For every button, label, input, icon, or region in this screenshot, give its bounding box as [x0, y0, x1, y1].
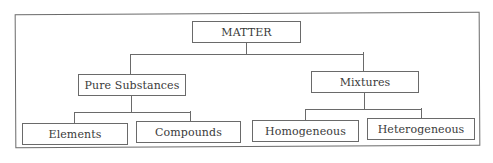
- connector-to-heterogeneous: [421, 108, 422, 118]
- node-compounds: Compounds: [136, 121, 241, 143]
- node-matter: MATTER: [192, 21, 301, 43]
- connector-pure-substances-stem: [131, 96, 132, 112]
- connector-to-elements: [74, 112, 75, 123]
- connector-root-branch: [130, 54, 364, 55]
- matter-classification-diagram: MATTER Pure Substances Mixtures Elements…: [0, 0, 493, 163]
- connector-to-homogeneous: [305, 109, 306, 120]
- connector-pure-substances-branch: [74, 112, 191, 113]
- node-homogeneous: Homogeneous: [252, 120, 359, 142]
- node-heterogeneous: Heterogeneous: [367, 118, 475, 140]
- connector-mixtures-branch: [305, 109, 422, 110]
- node-mixtures: Mixtures: [311, 71, 419, 93]
- connector-to-compounds: [190, 111, 191, 121]
- connector-root-stem: [246, 43, 247, 54]
- connector-to-pure-substances: [130, 54, 131, 74]
- node-pure-substances: Pure Substances: [78, 74, 186, 96]
- connector-mixtures-stem: [364, 93, 365, 109]
- node-elements: Elements: [22, 123, 128, 145]
- connector-to-mixtures: [363, 52, 364, 71]
